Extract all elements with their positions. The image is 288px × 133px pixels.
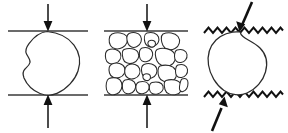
grain bbox=[125, 64, 140, 79]
grain bbox=[122, 80, 135, 94]
grain bbox=[143, 74, 151, 81]
compression-diagram-svg bbox=[0, 0, 288, 133]
grain bbox=[109, 33, 127, 49]
grain bbox=[148, 40, 156, 47]
grain bbox=[139, 48, 152, 62]
figure-container bbox=[0, 0, 288, 133]
grain bbox=[175, 50, 188, 63]
grain bbox=[161, 33, 179, 50]
grain bbox=[155, 48, 175, 66]
grain bbox=[136, 81, 149, 93]
grain bbox=[105, 49, 121, 64]
grain bbox=[149, 82, 163, 94]
grain bbox=[122, 49, 139, 64]
grain bbox=[176, 65, 188, 78]
grain bbox=[106, 78, 122, 95]
grain bbox=[127, 33, 142, 48]
grain bbox=[109, 63, 125, 78]
